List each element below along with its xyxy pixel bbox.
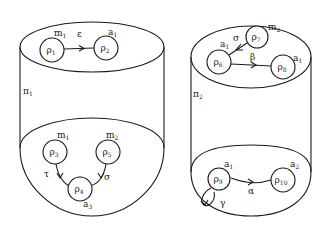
edge-label-beta: β bbox=[250, 52, 255, 62]
node-rho1: ρ1 m1 bbox=[40, 28, 66, 62]
node-rho10: ρ10 a2 bbox=[271, 159, 299, 192]
svg-text:a1: a1 bbox=[108, 27, 117, 38]
edge-beta bbox=[231, 64, 271, 66]
diagram-canvas: π1 ε ρ1 m1 ρ2 a1 τ σ ρ3 m1 ρ5 m2 bbox=[0, 0, 329, 229]
cylinder-pi1-label: π1 bbox=[23, 86, 33, 97]
edge-label-sigma-left: σ bbox=[104, 172, 110, 182]
edge-label-tau: τ bbox=[44, 169, 49, 179]
cylinder-pi1-bottom-bowl bbox=[20, 118, 164, 216]
svg-text:m2: m2 bbox=[106, 130, 119, 141]
edge-epsilon bbox=[64, 48, 94, 49]
node-rho5: ρ5 m2 bbox=[96, 130, 120, 164]
cylinder-pi2-label: π2 bbox=[193, 89, 203, 100]
edge-label-epsilon: ε bbox=[77, 29, 82, 39]
edge-label-gamma: γ bbox=[220, 198, 225, 208]
svg-text:m1: m1 bbox=[57, 130, 69, 141]
svg-text:m1: m1 bbox=[54, 28, 66, 39]
svg-text:a1: a1 bbox=[224, 159, 233, 170]
svg-text:a1: a1 bbox=[220, 39, 229, 50]
svg-text:a2: a2 bbox=[290, 159, 299, 170]
svg-text:a1: a1 bbox=[293, 53, 302, 64]
svg-text:a3: a3 bbox=[83, 199, 92, 210]
node-rho9: ρ9 a1 bbox=[208, 159, 233, 190]
edge-label-alpha: α bbox=[248, 186, 254, 196]
node-rho3: ρ3 m1 bbox=[43, 130, 69, 164]
cylinder-pi2: π2 σ β ρ7 m2 ρ6 a1 ρ8 a1 α γ bbox=[191, 22, 311, 216]
node-rho4: ρ4 a3 bbox=[68, 177, 92, 210]
edge-sigma-right bbox=[229, 43, 247, 55]
edge-label-sigma-right: σ bbox=[233, 33, 239, 43]
svg-text:m2: m2 bbox=[268, 22, 281, 33]
cylinder-pi1: π1 ε ρ1 m1 ρ2 a1 τ σ ρ3 m1 ρ5 m2 bbox=[20, 22, 164, 216]
node-rho8: ρ8 a1 bbox=[271, 53, 302, 79]
node-rho2: ρ2 a1 bbox=[94, 27, 118, 60]
node-rho6: ρ6 a1 bbox=[207, 39, 231, 74]
